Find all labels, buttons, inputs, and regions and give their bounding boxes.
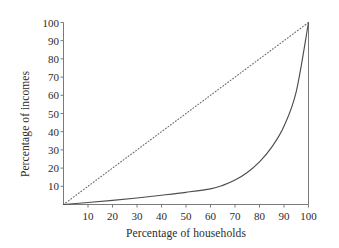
data-series	[64, 23, 309, 205]
equality-line	[64, 23, 309, 205]
axes	[61, 23, 309, 208]
lorenz-curve-chart: Percentage of incomes Percentage of hous…	[0, 0, 339, 248]
plot-area	[0, 0, 339, 248]
